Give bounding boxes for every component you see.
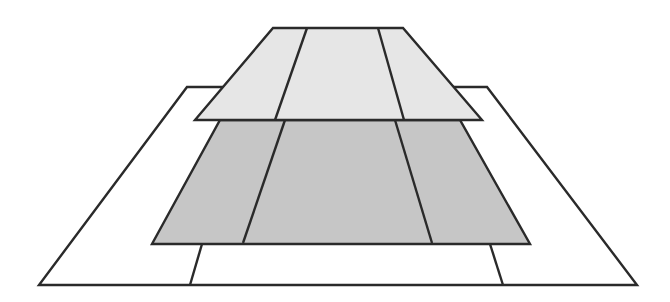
top-layer-outline <box>195 28 482 120</box>
top-layer <box>195 28 482 120</box>
layered-trapezoid-diagram <box>0 0 670 302</box>
